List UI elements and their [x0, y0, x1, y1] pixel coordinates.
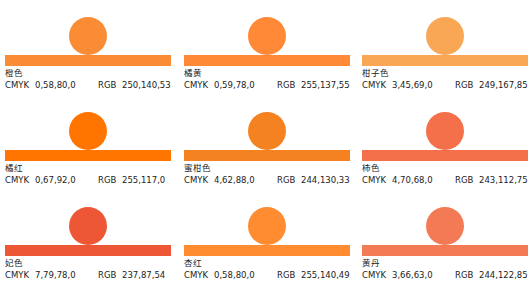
color-circle	[426, 112, 464, 150]
cmyk-label: CMYK	[5, 270, 29, 281]
color-swatch: 黄丹 CMYK 3,66,63,0 RGB 244,122,85	[362, 190, 528, 285]
color-circle	[248, 207, 286, 245]
color-name: 蜜柑色	[184, 163, 211, 174]
rgb-label: RGB	[277, 270, 295, 281]
color-circle	[69, 207, 107, 245]
cmyk-value: 4,62,88,0	[214, 175, 255, 186]
color-name: 柿色	[362, 163, 380, 174]
color-swatch: 橙色 CMYK 0,58,80,0 RGB 250,140,53	[5, 0, 171, 95]
color-name: 橘黄	[184, 68, 202, 79]
color-circle	[248, 112, 286, 150]
cmyk-label: CMYK	[362, 80, 386, 91]
color-swatch: 杏红 CMYK 0,58,80,0 RGB 255,140,49	[184, 190, 350, 285]
cmyk-label: CMYK	[5, 80, 29, 91]
rgb-value: 243,112,75	[479, 175, 528, 186]
cmyk-label: CMYK	[5, 175, 29, 186]
rgb-label: RGB	[277, 80, 295, 91]
color-swatch: 柑子色 CMYK 3,45,69,0 RGB 249,167,85	[362, 0, 528, 95]
color-bar	[184, 55, 350, 66]
cmyk-label: CMYK	[184, 175, 208, 186]
color-bar	[5, 245, 171, 256]
color-bar	[184, 245, 350, 256]
rgb-label: RGB	[98, 270, 116, 281]
color-swatch: 蜜柑色 CMYK 4,62,88,0 RGB 244,130,33	[184, 95, 350, 190]
color-bar	[362, 150, 528, 161]
cmyk-value: 0,59,78,0	[214, 80, 255, 91]
cmyk-value: 0,67,92,0	[35, 175, 76, 186]
color-swatch: 妃色 CMYK 7,79,78,0 RGB 237,87,54	[5, 190, 171, 285]
rgb-label: RGB	[98, 175, 116, 186]
cmyk-label: CMYK	[184, 80, 208, 91]
cmyk-value: 3,45,69,0	[392, 80, 433, 91]
rgb-value: 255,137,55	[301, 80, 350, 91]
color-circle	[248, 17, 286, 55]
color-swatch: 柿色 CMYK 4,70,68,0 RGB 243,112,75	[362, 95, 528, 190]
cmyk-label: CMYK	[362, 270, 386, 281]
color-name: 橘红	[5, 163, 23, 174]
color-bar	[5, 150, 171, 161]
cmyk-value: 7,79,78,0	[35, 270, 76, 281]
color-bar	[362, 245, 528, 256]
color-bar	[184, 150, 350, 161]
color-swatch: 橘黄 CMYK 0,59,78,0 RGB 255,137,55	[184, 0, 350, 95]
rgb-value: 237,87,54	[122, 270, 165, 281]
color-circle	[426, 17, 464, 55]
cmyk-value: 4,70,68,0	[392, 175, 433, 186]
rgb-value: 244,130,33	[301, 175, 350, 186]
rgb-value: 255,117,0	[122, 175, 165, 186]
rgb-value: 244,122,85	[479, 270, 528, 281]
color-swatch: 橘红 CMYK 0,67,92,0 RGB 255,117,0	[5, 95, 171, 190]
color-name: 黄丹	[362, 258, 380, 269]
color-name: 橙色	[5, 68, 23, 79]
rgb-label: RGB	[277, 175, 295, 186]
color-bar	[5, 55, 171, 66]
color-name: 柑子色	[362, 68, 389, 79]
color-circle	[69, 17, 107, 55]
color-name: 妃色	[5, 258, 23, 269]
color-name: 杏红	[184, 258, 202, 269]
rgb-label: RGB	[455, 270, 473, 281]
cmyk-value: 0,58,80,0	[214, 270, 255, 281]
cmyk-label: CMYK	[184, 270, 208, 281]
color-bar	[362, 55, 528, 66]
rgb-label: RGB	[98, 80, 116, 91]
rgb-value: 250,140,53	[122, 80, 171, 91]
color-circle	[69, 112, 107, 150]
rgb-value: 249,167,85	[479, 80, 528, 91]
cmyk-value: 0,58,80,0	[35, 80, 76, 91]
rgb-label: RGB	[455, 80, 473, 91]
color-circle	[426, 207, 464, 245]
cmyk-label: CMYK	[362, 175, 386, 186]
rgb-value: 255,140,49	[301, 270, 350, 281]
rgb-label: RGB	[455, 175, 473, 186]
cmyk-value: 3,66,63,0	[392, 270, 433, 281]
